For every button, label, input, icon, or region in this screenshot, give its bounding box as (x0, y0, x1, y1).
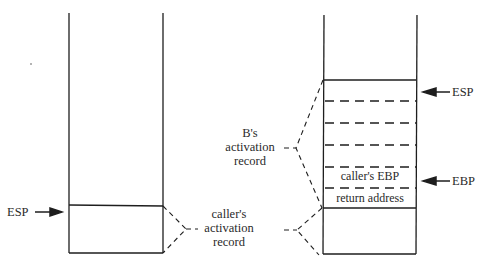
right-caller-brace (297, 208, 322, 255)
label-line: caller's (203, 207, 255, 221)
right-esp-label: ESP (452, 85, 474, 99)
right-stack-wall-right (416, 15, 417, 254)
b-record-brace (296, 80, 323, 208)
right-stack-wall-left (323, 15, 324, 254)
cell-return-address: return address (324, 191, 416, 205)
left-stack-top-of-caller (69, 205, 163, 206)
label-line: record (219, 154, 281, 168)
label-line: activation (203, 221, 255, 235)
arrow-right-icon (50, 208, 62, 216)
label-line: activation (219, 140, 281, 154)
label-line: B's (219, 126, 281, 140)
label-line: record (203, 235, 255, 249)
cell-callers-ebp: caller's EBP (324, 169, 416, 183)
left-caller-brace (163, 206, 186, 253)
right-ebp-label: EBP (452, 174, 475, 188)
left-caller-record-label: caller's activation record (203, 207, 255, 249)
arrow-left-icon (423, 177, 436, 185)
b-record-label: B's activation record (219, 126, 281, 168)
arrow-left-icon (423, 88, 436, 96)
left-esp-label: ESP (7, 205, 29, 219)
